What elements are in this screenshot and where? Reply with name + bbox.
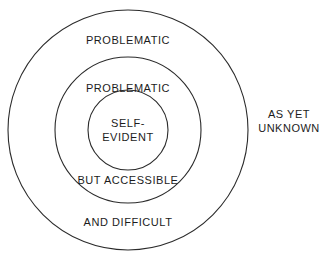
middle-ring-bottom-label: BUT ACCESSIBLE	[0, 173, 256, 187]
outside-region-label: AS YET UNKNOWN	[254, 107, 324, 135]
outer-ring-top-label: PROBLEMATIC	[0, 33, 256, 47]
outer-ring-bottom-label: AND DIFFICULT	[0, 215, 256, 229]
concentric-circles-diagram: PROBLEMATIC PROBLEMATIC SELF- EVIDENT BU…	[0, 0, 324, 273]
outside-region-label-line-2: UNKNOWN	[254, 121, 324, 135]
inner-circle-label: SELF- EVIDENT	[0, 116, 256, 144]
inner-circle-label-line-2: EVIDENT	[0, 130, 256, 144]
outside-region-label-line-1: AS YET	[254, 107, 324, 121]
inner-circle-label-line-1: SELF-	[0, 116, 256, 130]
middle-ring-top-label: PROBLEMATIC	[0, 81, 256, 95]
